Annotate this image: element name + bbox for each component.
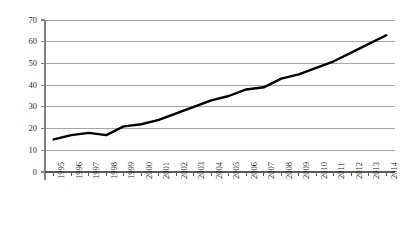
line-chart: 0102030405060701995199619971998199920002…: [0, 0, 409, 247]
x-axis-tick-label: 2010: [320, 162, 329, 179]
x-axis-tick-label: 2002: [180, 162, 189, 179]
x-axis-tick-label: 2012: [355, 162, 364, 179]
y-axis-tick-label: 50: [15, 59, 37, 68]
x-axis-tick-label: 2006: [250, 162, 259, 179]
y-axis-tick-label: 70: [15, 16, 37, 25]
x-axis-tick-label: 2003: [197, 162, 206, 179]
y-axis-tick-label: 0: [15, 168, 37, 177]
data-series-line: [54, 35, 387, 139]
x-axis-tick-label: 2014: [390, 162, 399, 179]
chart-canvas: [0, 0, 409, 247]
x-axis-tick-label: 1999: [127, 162, 136, 179]
x-axis-tick-label: 2013: [372, 162, 381, 179]
x-axis-tick-label: 2000: [145, 162, 154, 179]
y-axis-tick-label: 40: [15, 81, 37, 90]
x-axis-tick-label: 2004: [215, 162, 224, 179]
x-axis-tick-label: 2009: [302, 162, 311, 179]
x-axis-tick-label: 2005: [232, 162, 241, 179]
y-axis-tick-label: 10: [15, 146, 37, 155]
x-axis-tick-label: 2001: [162, 162, 171, 179]
x-axis-tick-label: 2008: [285, 162, 294, 179]
x-axis-tick-label: 2007: [267, 162, 276, 179]
x-axis-tick-label: 2011: [337, 162, 346, 179]
x-axis-tick-label: 1996: [75, 162, 84, 179]
x-axis-tick-label: 1995: [57, 162, 66, 179]
y-axis-tick-label: 20: [15, 124, 37, 133]
x-axis-tick-label: 1998: [110, 162, 119, 179]
y-axis-tick-label: 60: [15, 37, 37, 46]
y-axis-tick-label: 30: [15, 102, 37, 111]
x-axis-tick-label: 1997: [92, 162, 101, 179]
